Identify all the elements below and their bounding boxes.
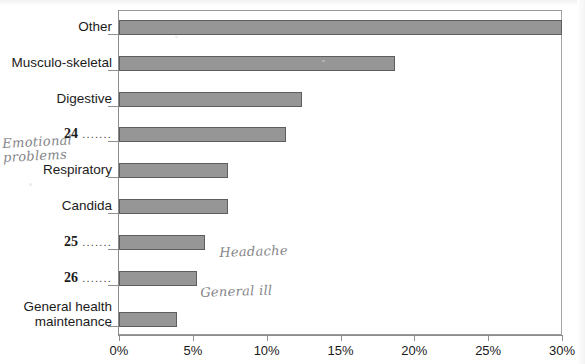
x-axis-tick <box>488 336 489 341</box>
bar <box>119 199 228 214</box>
dotted-leader: ....... <box>78 236 112 248</box>
bar-row: Other <box>0 14 585 50</box>
bar <box>119 92 302 107</box>
y-axis-tick <box>108 70 118 71</box>
scan-speck <box>322 60 325 62</box>
x-axis-label: 10% <box>237 343 297 358</box>
x-axis-tick <box>193 336 194 341</box>
handwritten-note-headache: Headache <box>219 243 288 260</box>
dotted-leader: ....... <box>78 272 112 284</box>
y-axis-tick <box>108 177 118 178</box>
bar-row: Musculo-skeletal <box>0 50 585 86</box>
scan-speck <box>175 36 178 38</box>
bar-row: 25 ....... <box>0 229 585 265</box>
y-axis-tick <box>108 285 118 286</box>
scan-edge-top <box>0 0 585 6</box>
y-axis-tick <box>108 141 118 142</box>
x-axis-label: 25% <box>458 343 518 358</box>
category-label: Musculo-skeletal <box>0 55 112 70</box>
category-label: Digestive <box>0 91 112 106</box>
x-axis-tick <box>267 336 268 341</box>
x-axis-label: 5% <box>163 343 223 358</box>
bar-row: Candida <box>0 193 585 229</box>
y-axis-tick <box>108 213 118 214</box>
bar <box>119 163 228 178</box>
category-label: 25 ....... <box>0 234 112 250</box>
handwritten-note-general-ill: General ill <box>200 282 273 300</box>
bar-chart: OtherMusculo-skeletalDigestive24 .......… <box>0 0 585 364</box>
y-axis-tick <box>108 34 118 35</box>
bar <box>119 56 395 71</box>
x-axis-label: 30% <box>532 343 585 358</box>
bar-row: 26 ....... <box>0 265 585 301</box>
y-axis-tick <box>108 106 118 107</box>
dotted-leader: ....... <box>78 128 112 140</box>
x-axis-tick <box>341 336 342 341</box>
handwritten-note-emotional-problems: Emotional problems <box>2 133 73 165</box>
category-label: Other <box>0 19 112 34</box>
bar-row: 24 ....... <box>0 121 585 157</box>
category-label: 26 ....... <box>0 270 112 286</box>
bar <box>119 127 286 142</box>
x-axis-label: 20% <box>384 343 444 358</box>
bar <box>119 20 562 35</box>
x-axis-tick <box>414 336 415 341</box>
bar-row: Respiratory <box>0 157 585 193</box>
category-label: Candida <box>0 198 112 213</box>
bar <box>119 235 205 250</box>
y-axis-tick <box>108 326 118 327</box>
category-label: Respiratory <box>0 162 112 177</box>
x-axis-tick <box>119 336 120 341</box>
x-axis-label: 15% <box>311 343 371 358</box>
scan-speck <box>29 183 32 186</box>
x-axis-label: 0% <box>89 343 149 358</box>
bar-row: Digestive <box>0 86 585 122</box>
bar-row: General health maintenance <box>0 300 585 336</box>
bar <box>119 312 177 327</box>
bar <box>119 271 197 286</box>
y-axis-tick <box>108 249 118 250</box>
x-axis-tick <box>562 336 563 341</box>
category-label: General health maintenance <box>0 299 112 329</box>
